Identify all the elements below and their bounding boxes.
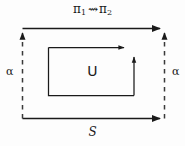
top-edge-label: π1⇝π2 bbox=[0, 3, 185, 17]
pi-two-symbol: π bbox=[99, 2, 107, 16]
pi-two-subscript: 2 bbox=[107, 8, 112, 17]
center-label: U bbox=[0, 64, 185, 78]
bottom-edge-label: S bbox=[0, 126, 185, 138]
squiggly-arrow-icon: ⇝ bbox=[86, 2, 99, 16]
pi-one-symbol: π bbox=[73, 2, 81, 16]
diagram-canvas: π1⇝π2 α α U S bbox=[0, 0, 185, 146]
